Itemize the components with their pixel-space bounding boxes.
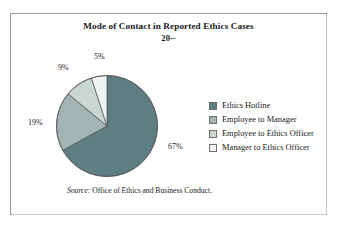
chart-subtitle-year: 20-- — [11, 33, 326, 44]
pie-slice-label-ethics-hotline: 67% — [168, 142, 183, 151]
pie-chart-svg — [56, 75, 158, 177]
source-keyword: Source: — [67, 186, 90, 195]
source-note: Source: Office of Ethics and Business Co… — [67, 186, 212, 195]
chart-title-block: Mode of Contact in Reported Ethics Cases… — [11, 21, 326, 44]
legend-item-label: Employee to Ethics Officer — [222, 129, 314, 139]
legend-item-label: Manager to Ethics Officer — [222, 143, 310, 153]
pie-slice-label-manager-to-ethics-officer: 5% — [94, 52, 105, 61]
chart-figure-frame: Mode of Contact in Reported Ethics Cases… — [10, 13, 327, 215]
legend-swatch-icon — [209, 116, 217, 124]
legend-item[interactable]: Ethics Hotline — [209, 99, 334, 113]
legend-swatch-icon — [209, 102, 217, 110]
pie-chart — [56, 75, 158, 177]
source-text: Office of Ethics and Business Conduct. — [90, 186, 212, 195]
legend-item[interactable]: Employee to Manager — [209, 113, 334, 127]
chart-title: Mode of Contact in Reported Ethics Cases — [11, 21, 326, 32]
pie-slice-label-employee-to-ethics-officer: 9% — [58, 63, 69, 72]
pie-slice-label-employee-to-manager: 19% — [28, 118, 43, 127]
legend-item[interactable]: Manager to Ethics Officer — [209, 141, 334, 155]
legend-item-label: Employee to Manager — [222, 115, 296, 125]
legend-item[interactable]: Employee to Ethics Officer — [209, 127, 334, 141]
legend-swatch-icon — [209, 144, 217, 152]
chart-legend: Ethics HotlineEmployee to ManagerEmploye… — [209, 99, 334, 155]
legend-item-label: Ethics Hotline — [222, 101, 270, 111]
legend-swatch-icon — [209, 130, 217, 138]
